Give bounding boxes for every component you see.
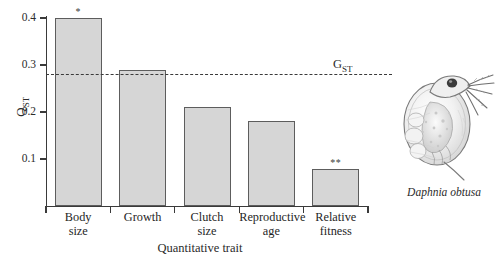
x-tick-label-line: age (239, 225, 303, 239)
x-axis-title: Quantitative trait (120, 241, 280, 256)
significance-marker: * (58, 7, 98, 17)
y-tick-label: 0.2 (0, 106, 36, 118)
bar-reproductive-age[interactable] (248, 121, 295, 206)
x-tick-label: Bodysize (46, 211, 110, 238)
x-tick-label: Relativefitness (304, 211, 368, 238)
bar-growth[interactable] (119, 70, 166, 206)
x-tick-label-line: fitness (304, 225, 368, 239)
y-tick-mark (40, 158, 47, 159)
y-tick-label: 0.3 (0, 59, 36, 71)
daphnia-caption: Daphnia obtusa (392, 186, 496, 198)
y-tick-mark (40, 64, 47, 65)
x-tick-label: Growth (110, 211, 174, 225)
bar-body-size[interactable] (55, 18, 102, 206)
reference-line-label: GST (333, 57, 353, 74)
bar-relative-fitness[interactable] (312, 169, 359, 206)
reference-label-sub: ST (342, 64, 353, 74)
daphnia-illustration-panel: Daphnia obtusa (392, 58, 496, 213)
x-tick-label: Reproductiveage (239, 211, 303, 238)
x-tick-label: Clutchsize (175, 211, 239, 238)
x-tick-label-line: Growth (110, 211, 174, 225)
reference-line-gst (46, 74, 392, 75)
daphnia-icon (392, 58, 496, 186)
y-tick-label: 0.1 (0, 153, 36, 165)
x-tick-label-line: Body (46, 211, 110, 225)
x-tick-label-line: Relative (304, 211, 368, 225)
y-tick-label: 0.4 (0, 12, 36, 24)
y-tick-mark (40, 17, 47, 18)
x-tick-label-line: Reproductive (239, 211, 303, 225)
figure-panel: QST Quantitative trait 0.40.30.20.1 *** … (0, 0, 500, 263)
x-tick-label-line: Clutch (175, 211, 239, 225)
reference-label-base: G (333, 57, 342, 71)
y-tick-mark (40, 111, 47, 112)
x-tick-label-line: size (175, 225, 239, 239)
bar-clutch-size[interactable] (184, 107, 231, 206)
significance-marker: ** (316, 158, 356, 168)
x-tick-label-line: size (46, 225, 110, 239)
